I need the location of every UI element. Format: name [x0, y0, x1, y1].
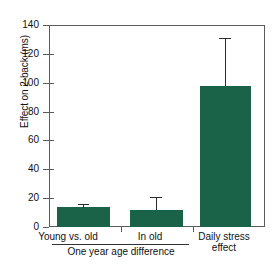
- plot-area: 140 120 100 80 60 40 20 0: [49, 25, 265, 227]
- y-tick-inner-80: [49, 112, 54, 113]
- error-bar-in-old: [156, 197, 157, 210]
- bar-chart-figure: Effect on 2-back (ms) 140 120 100 80 60 …: [0, 0, 276, 268]
- y-tick-label-80: 80: [28, 106, 39, 117]
- bar-young-vs-old: [57, 207, 110, 227]
- bar-daily-stress-effect: [200, 86, 251, 227]
- x-category-label-in-old: In old: [122, 231, 178, 242]
- x-category-label-young-vs-old: Young vs. old: [34, 231, 102, 242]
- y-tick-inner-140: [49, 25, 54, 26]
- error-cap-in-old: [150, 197, 162, 198]
- y-tick-inner-120: [49, 54, 54, 55]
- error-cap-daily-stress-effect: [219, 38, 231, 39]
- y-tick-inner-60: [49, 140, 54, 141]
- error-bar-daily-stress-effect: [225, 38, 226, 86]
- y-tick-inner-20: [49, 198, 54, 199]
- y-tick-label-120: 120: [22, 48, 39, 59]
- y-tick-label-60: 60: [28, 134, 39, 145]
- group-bracket-rule: [52, 244, 189, 245]
- group-bracket-label: One year age difference: [36, 246, 206, 257]
- y-tick-label-100: 100: [22, 77, 39, 88]
- y-tick-inner-100: [49, 83, 54, 84]
- y-tick-inner-40: [49, 169, 54, 170]
- y-tick-label-140: 140: [22, 19, 39, 30]
- y-tick-0: 0: [43, 227, 49, 228]
- y-tick-label-20: 20: [28, 192, 39, 203]
- y-tick-label-40: 40: [28, 163, 39, 174]
- bar-in-old: [130, 210, 183, 227]
- error-cap-young-vs-old: [78, 204, 89, 205]
